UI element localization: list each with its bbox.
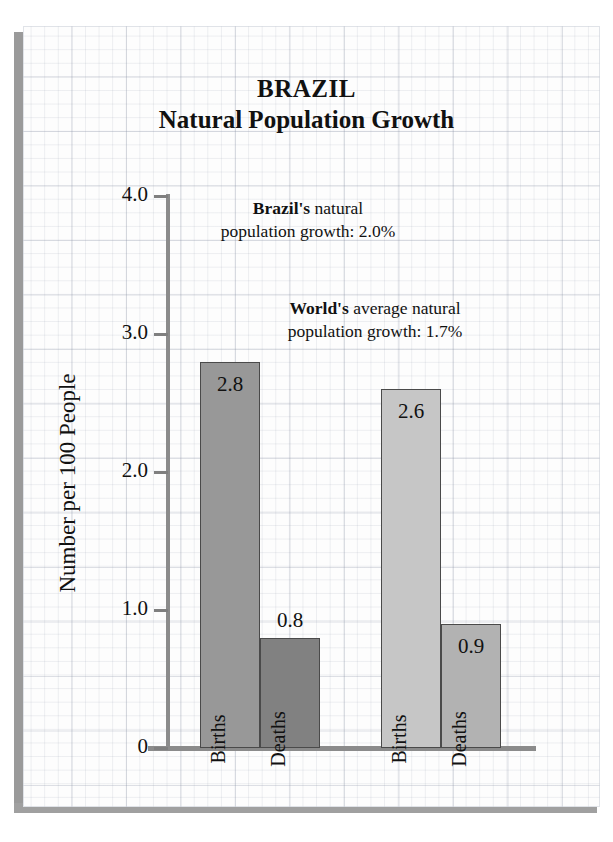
y-tick-label-text: 4.0 [122,182,148,207]
y-tick-label-text: 3.0 [122,320,148,345]
y-tick-mark [154,747,168,750]
bar-brazil-births[interactable]: Births [200,362,260,748]
y-tick-label-text: 2.0 [122,458,148,483]
bar-value-label: 2.6 [381,399,441,424]
y-axis-title: Number per 100 People [55,353,81,613]
bar-chart-plot: 4.03.02.01.00 Number per 100 People Birt… [0,0,613,842]
bar-value-label: 0.9 [441,634,501,659]
y-tick-label-text: 0 [138,734,149,759]
bar-brazil-deaths[interactable]: Deaths [260,638,320,748]
bar-series-label: Births [388,715,411,764]
y-tick-mark [154,609,168,612]
y-tick-label-text: 1.0 [122,596,148,621]
bar-series-label: Deaths [448,711,471,767]
y-tick-mark [154,333,168,336]
bar-world-births[interactable]: Births [381,389,441,748]
y-tick-mark [154,195,168,198]
bar-series-label: Births [207,715,230,764]
bar-value-label: 0.8 [260,608,320,633]
bar-series-label: Deaths [267,711,290,767]
bar-value-label: 2.8 [200,372,260,397]
y-tick-mark [154,471,168,474]
